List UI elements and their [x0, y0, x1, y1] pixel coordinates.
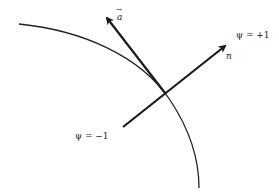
n-vector-label: n — [226, 51, 232, 61]
interface-curve — [19, 24, 199, 188]
a-vector-arrow — [107, 18, 165, 93]
a-vector-label: a → — [116, 6, 122, 22]
vector-arrow-icon: → — [116, 6, 122, 14]
diagram-canvas: a → n ψ = +1 ψ = −1 — [0, 0, 279, 195]
psi-plus-label: ψ = +1 — [236, 30, 270, 40]
psi-minus-label: ψ = −1 — [75, 131, 109, 141]
